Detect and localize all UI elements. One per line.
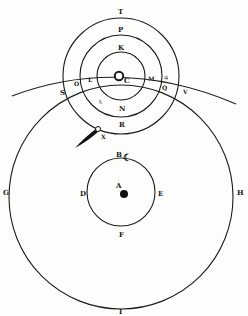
label-X: X	[101, 133, 106, 140]
label-L: L	[88, 76, 93, 83]
comet-icon	[75, 127, 101, 149]
label-M: M	[148, 75, 155, 82]
astronomical-diagram: T P K C L M O S Q V N R X ♄ ♃ B ☾ D E F …	[0, 0, 248, 316]
label-S: S	[60, 88, 65, 97]
earth-symbol	[120, 190, 128, 198]
label-E: E	[158, 189, 163, 198]
label-F: F	[119, 230, 124, 239]
diagram-svg: T P K C L M O S Q V N R X ♄ ♃ B ☾ D E F …	[0, 0, 248, 316]
label-C: C	[124, 76, 130, 85]
label-R: R	[119, 120, 125, 129]
planet-symbol-jupiter: ♃	[163, 74, 168, 81]
label-V: V	[182, 88, 188, 95]
label-P: P	[118, 25, 124, 34]
label-G: G	[3, 188, 9, 197]
sun-symbol	[115, 72, 123, 80]
label-D: D	[80, 189, 86, 198]
label-N: N	[119, 104, 126, 113]
sun-orbit-circle	[9, 85, 233, 309]
label-O: O	[74, 80, 79, 87]
label-B: B	[116, 150, 122, 159]
label-K: K	[118, 43, 125, 52]
label-Q: Q	[162, 84, 167, 92]
label-T: T	[118, 7, 124, 16]
label-I: I	[119, 307, 122, 316]
moon-symbol: ☾	[123, 152, 132, 163]
planet-symbol-saturn: ♄	[98, 98, 103, 105]
label-A: A	[115, 181, 122, 190]
label-H: H	[237, 188, 244, 197]
